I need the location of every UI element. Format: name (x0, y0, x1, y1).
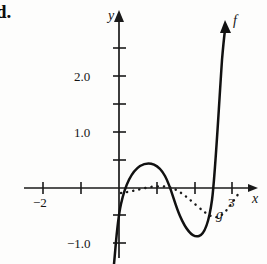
x-tick-label-3: 3 (228, 196, 235, 209)
figure-page: d. (0, 0, 267, 264)
curve-label-f: f (233, 14, 237, 28)
y-tick-label-2: 2.0 (74, 70, 90, 83)
x-tick-label-neg2: −2 (33, 196, 47, 209)
y-axis-arrowhead (114, 10, 124, 22)
curve-f-arrowhead (220, 20, 231, 33)
y-tick-label-1: 1.0 (74, 126, 90, 139)
x-axis (24, 184, 258, 192)
curve-f (114, 30, 225, 264)
graph-figure (0, 0, 267, 264)
y-tick-label-neg1: −1.0 (67, 237, 91, 250)
curve-label-g: g (216, 208, 223, 222)
y-axis-label: y (108, 9, 114, 23)
x-axis-label: x (252, 192, 258, 206)
